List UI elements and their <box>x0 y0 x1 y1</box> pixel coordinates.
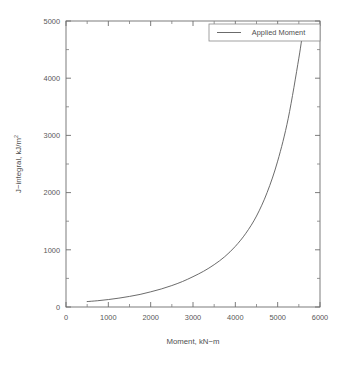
y-tick-label: 3000 <box>44 131 60 140</box>
chart-legend: Applied Moment <box>209 24 320 41</box>
x-tick-label: 1000 <box>100 313 116 322</box>
x-tick-label: 2000 <box>142 313 158 322</box>
y-tick-label: 2000 <box>44 188 60 197</box>
x-tick-label: 3000 <box>185 313 201 322</box>
chart-figure: 0100020003000400050006000 01000200030004… <box>0 0 353 367</box>
y-tick-label: 5000 <box>44 17 60 26</box>
y-tick-label: 0 <box>56 303 60 312</box>
x-tick-label: 0 <box>64 313 68 322</box>
plot-border <box>66 21 320 307</box>
x-tick-label: 4000 <box>227 313 243 322</box>
series-line-applied-moment <box>87 30 303 302</box>
x-axis-tick-labels: 0100020003000400050006000 <box>64 313 328 322</box>
y-tick-label: 4000 <box>44 74 60 83</box>
x-axis-title: Moment, kN−m <box>166 337 219 346</box>
plot-frame <box>66 21 320 307</box>
x-tick-label: 5000 <box>269 313 285 322</box>
y-axis-ticks <box>66 21 320 307</box>
y-axis-tick-labels: 010002000300040005000 <box>44 17 60 312</box>
legend-label-applied-moment: Applied Moment <box>252 28 305 37</box>
chart-canvas: 0100020003000400050006000 01000200030004… <box>0 0 353 367</box>
x-axis-ticks <box>66 21 320 307</box>
y-tick-label: 1000 <box>44 246 60 255</box>
x-tick-label: 6000 <box>312 313 328 322</box>
y-axis-title: J−integral, kJ/m2 <box>13 135 23 193</box>
data-series-group <box>87 30 303 302</box>
